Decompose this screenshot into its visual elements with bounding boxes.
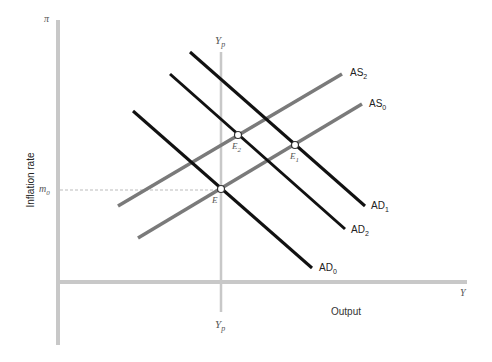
ad1-main: AD (371, 200, 385, 211)
ad0-sub: 0 (333, 268, 337, 275)
point-e2 (235, 132, 242, 139)
yp-top-label: Yp (215, 34, 225, 49)
as0-main: AS (369, 98, 382, 109)
as0-sub: 0 (382, 104, 386, 111)
x-axis-title: Output (331, 306, 361, 317)
m0-label: m0 (39, 183, 50, 197)
point-e-label: E (212, 195, 218, 205)
as2-main: AS (350, 67, 363, 78)
ad1-sub: 1 (385, 206, 389, 213)
y-axis-title: Inflation rate (25, 152, 36, 207)
point-e (218, 186, 225, 193)
ad2-label: AD2 (351, 224, 369, 237)
yp-bottom-label: Yp (215, 318, 225, 333)
m0-sub: 0 (46, 189, 50, 197)
ad1-label: AD1 (371, 200, 389, 213)
ad2-sub: 2 (365, 230, 369, 237)
e2-sub: 2 (238, 146, 242, 154)
ad2-curve (170, 74, 345, 229)
as0-curve (138, 104, 362, 238)
ad0-main: AD (319, 262, 333, 273)
x-axis-symbol: Y (460, 287, 466, 298)
as2-sub: 2 (363, 73, 367, 80)
pi-label: π (44, 13, 49, 24)
yp-top-sub: p (221, 40, 225, 49)
chart-canvas (0, 0, 492, 362)
e1-sub: 1 (296, 156, 300, 164)
ad2-main: AD (351, 224, 365, 235)
as0-label: AS0 (369, 98, 386, 111)
yp-bottom-sub: p (221, 324, 225, 333)
as2-curve (118, 74, 342, 206)
ad0-label: AD0 (319, 262, 337, 275)
point-e2-label: E2 (232, 141, 241, 154)
point-e1-label: E1 (290, 151, 299, 164)
as2-label: AS2 (350, 67, 367, 80)
point-e1 (292, 142, 299, 149)
